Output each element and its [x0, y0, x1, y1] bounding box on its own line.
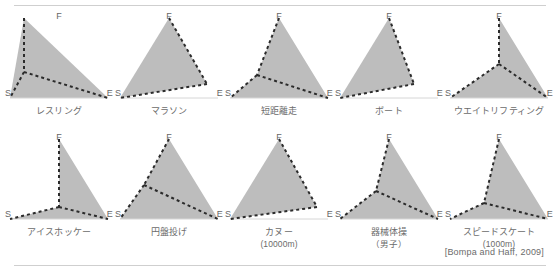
vertex-label-s: S — [225, 210, 231, 219]
shaded-region — [340, 18, 414, 98]
sport-name: ボート — [375, 106, 402, 116]
sport-name: マラソン — [151, 106, 187, 116]
vertex-label-e: E — [327, 210, 333, 219]
sport-panel: FSEマラソン — [114, 12, 224, 133]
vertex-label-f: F — [56, 12, 62, 21]
top-divider-rule — [14, 5, 546, 6]
shaded-region — [230, 18, 328, 98]
vertex-label-e: E — [107, 89, 113, 98]
vertex-label-f: F — [276, 133, 282, 142]
sport-panel: FSEカヌー(10000m) — [224, 133, 334, 254]
triangle-chart: FSE — [224, 133, 334, 228]
vertex-label-s: S — [115, 210, 121, 219]
triangle-chart: FSE — [4, 133, 114, 228]
bottom-divider-rule — [14, 265, 546, 266]
vertex-label-e: E — [217, 210, 223, 219]
triangle-chart: FSE — [334, 133, 444, 228]
shaded-region — [120, 139, 218, 219]
triangle-panel-grid: FSEレスリングFSEマラソンFSE短距離走FSEボートFSEウエイトリフティン… — [4, 12, 556, 254]
triangle-chart: FSE — [224, 12, 334, 107]
panel-row: FSEレスリングFSEマラソンFSE短距離走FSEボートFSEウエイトリフティン… — [4, 12, 556, 133]
sport-panel: FSE器械体操（男子） — [334, 133, 444, 254]
sport-caption: 短距離走 — [224, 105, 334, 117]
triangle-svg — [224, 12, 334, 107]
vertex-label-s: S — [445, 89, 451, 98]
triangle-chart: FSE — [114, 133, 224, 228]
shaded-region — [230, 139, 317, 219]
triangle-chart: FSE — [444, 133, 554, 228]
triangle-svg — [224, 133, 334, 228]
sport-caption: レスリング — [4, 105, 114, 117]
sport-panel: FSEボート — [334, 12, 444, 133]
vertex-label-e: E — [437, 89, 443, 98]
sport-panel: FSEスピードスケート(1000m) — [444, 133, 554, 254]
vertex-label-e: E — [437, 210, 443, 219]
triangle-svg — [114, 12, 224, 107]
sport-caption: 円盤投げ — [114, 226, 224, 238]
vertex-label-e: E — [547, 210, 553, 219]
sport-name: 器械体操 — [371, 227, 407, 237]
figure-root: FSEレスリングFSEマラソンFSE短距離走FSEボートFSEウエイトリフティン… — [0, 0, 560, 275]
vertex-label-f: F — [386, 133, 392, 142]
shaded-region — [450, 139, 548, 219]
sport-panel: FSE円盤投げ — [114, 133, 224, 254]
triangle-chart: FSE — [444, 12, 554, 107]
sport-caption: ウエイトリフティング — [444, 105, 554, 117]
vertex-label-f: F — [166, 133, 172, 142]
vertex-label-e: E — [547, 89, 553, 98]
triangle-chart: FSE — [114, 12, 224, 107]
triangle-svg — [4, 133, 114, 228]
vertex-label-f: F — [496, 133, 502, 142]
vertex-label-f: F — [386, 12, 392, 21]
vertex-label-e: E — [107, 210, 113, 219]
sport-caption: マラソン — [114, 105, 224, 117]
vertex-label-f: F — [166, 12, 172, 21]
vertex-label-s: S — [335, 210, 341, 219]
sport-name: スピードスケート — [463, 227, 536, 237]
triangle-svg — [4, 12, 114, 107]
panel-row: FSEアイスホッケーFSE円盤投げFSEカヌー(10000m)FSE器械体操（男… — [4, 133, 556, 254]
sport-panel: FSE短距離走 — [224, 12, 334, 133]
triangle-svg — [444, 133, 554, 228]
sport-panel: FSEウエイトリフティング — [444, 12, 554, 133]
vertex-label-s: S — [335, 89, 341, 98]
vertex-label-s: S — [445, 210, 451, 219]
sport-panel: FSEアイスホッケー — [4, 133, 114, 254]
vertex-label-e: E — [327, 89, 333, 98]
sport-name-sub: （男子） — [334, 238, 444, 250]
sport-name: アイスホッケー — [27, 227, 91, 237]
triangle-svg — [114, 133, 224, 228]
sport-name: カヌー — [265, 227, 292, 237]
vertex-label-f: F — [56, 133, 62, 142]
sport-name-sub: (10000m) — [224, 238, 334, 250]
sport-caption: カヌー(10000m) — [224, 226, 334, 250]
sport-name: 短距離走 — [261, 106, 297, 116]
source-citation: [Bompa and Haff, 2009] — [445, 247, 544, 257]
triangle-chart: FSE — [334, 12, 444, 107]
sport-caption: アイスホッケー — [4, 226, 114, 238]
sport-panel: FSEレスリング — [4, 12, 114, 133]
triangle-svg — [334, 12, 444, 107]
vertex-label-s: S — [115, 89, 121, 98]
sport-caption: ボート — [334, 105, 444, 117]
sport-caption: 器械体操（男子） — [334, 226, 444, 250]
vertex-label-f: F — [276, 12, 282, 21]
vertex-label-s: S — [5, 210, 11, 219]
sport-name: ウエイトリフティング — [454, 106, 544, 116]
vertex-label-s: S — [5, 89, 11, 98]
sport-name: レスリング — [36, 106, 82, 116]
vertex-label-e: E — [217, 89, 223, 98]
sport-name: 円盤投げ — [151, 227, 187, 237]
vertex-label-f: F — [496, 12, 502, 21]
vertex-label-s: S — [225, 89, 231, 98]
triangle-svg — [444, 12, 554, 107]
triangle-chart: FSE — [4, 12, 114, 107]
triangle-svg — [334, 133, 444, 228]
